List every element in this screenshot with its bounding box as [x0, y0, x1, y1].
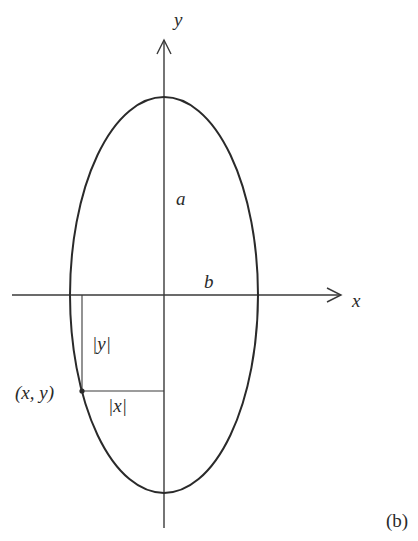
point-marker: [79, 388, 84, 393]
x-axis-label: x: [351, 290, 361, 311]
semi-minor-label: b: [204, 271, 214, 292]
semi-major-label: a: [176, 188, 186, 209]
abs-x-label: |x|: [108, 395, 127, 416]
point-label: (x, y): [15, 382, 54, 404]
x-axis: [12, 288, 341, 302]
y-axis: [157, 40, 171, 528]
ellipse-diagram: y x a b |y| |x| (x, y) (b): [0, 0, 418, 541]
panel-label: (b): [386, 510, 408, 532]
y-axis-label: y: [172, 9, 183, 30]
abs-y-label: |y|: [92, 333, 111, 354]
